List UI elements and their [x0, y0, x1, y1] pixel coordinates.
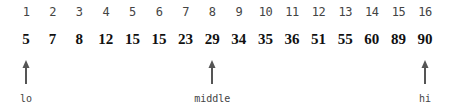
array-index: 16	[412, 5, 438, 19]
array-index: 9	[226, 5, 252, 19]
array-value: 36	[279, 31, 305, 48]
array-index: 3	[66, 5, 92, 19]
array-index: 10	[252, 5, 278, 19]
array-value: 34	[226, 31, 252, 48]
array-index: 11	[279, 5, 305, 19]
array-value: 8	[66, 31, 92, 48]
array-index: 2	[40, 5, 66, 19]
array-value: 55	[332, 31, 358, 48]
array-index: 7	[173, 5, 199, 19]
array-value: 89	[385, 31, 411, 48]
array-value: 12	[93, 31, 119, 48]
array-index: 14	[359, 5, 385, 19]
up-arrow-icon	[21, 60, 31, 84]
pointer-label-lo: lo	[0, 93, 56, 104]
array-value: 60	[359, 31, 385, 48]
up-arrow-icon	[420, 60, 430, 84]
array-index: 5	[119, 5, 145, 19]
array-index: 6	[146, 5, 172, 19]
array-value: 90	[412, 31, 438, 48]
pointer-label-hi: hi	[395, 93, 455, 104]
array-value: 29	[199, 31, 225, 48]
array-index: 15	[385, 5, 411, 19]
array-index: 1	[13, 5, 39, 19]
array-value: 5	[13, 31, 39, 48]
array-value: 15	[146, 31, 172, 48]
binary-search-diagram: 12345678910111213141516 5781215152329343…	[0, 0, 456, 112]
array-index: 12	[306, 5, 332, 19]
array-index: 4	[93, 5, 119, 19]
array-value: 51	[306, 31, 332, 48]
array-value: 23	[173, 31, 199, 48]
array-index: 8	[199, 5, 225, 19]
array-index: 13	[332, 5, 358, 19]
array-value: 15	[119, 31, 145, 48]
up-arrow-icon	[207, 60, 217, 84]
pointer-label-middle: middle	[182, 93, 242, 104]
array-value: 35	[252, 31, 278, 48]
array-value: 7	[40, 31, 66, 48]
